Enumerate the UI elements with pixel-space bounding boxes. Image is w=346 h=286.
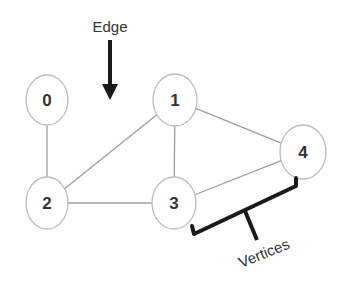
vertex-label: 3 (169, 194, 178, 213)
graph-diagram: 01234 Edge Vertices (0, 0, 346, 286)
vertex-1: 1 (153, 74, 197, 126)
vertex-2: 2 (26, 177, 68, 229)
vertex-label: 2 (42, 194, 51, 213)
vertex-label: 1 (170, 91, 179, 110)
vertex-0: 0 (26, 75, 68, 125)
vertex-3: 3 (152, 177, 196, 229)
vertex-label: 0 (42, 91, 51, 110)
edge-label: Edge (92, 18, 127, 35)
vertex-label: 4 (298, 143, 308, 162)
vertex-4: 4 (280, 125, 326, 179)
